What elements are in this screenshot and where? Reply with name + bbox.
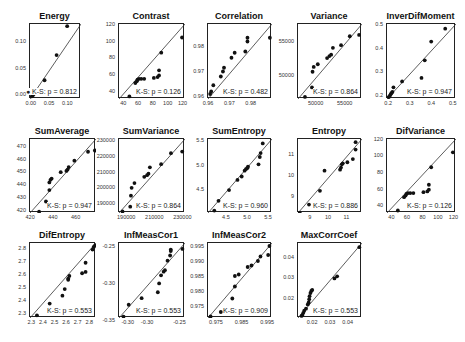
data-point: [159, 162, 163, 166]
data-point: [423, 58, 427, 62]
data-point: [180, 150, 184, 154]
y-tick-label: 50000: [271, 72, 294, 78]
data-point: [127, 95, 131, 99]
data-point: [211, 83, 215, 87]
y-tick-label: 60: [360, 186, 383, 192]
plot-title: Energy: [29, 11, 80, 21]
data-point: [67, 274, 71, 278]
data-point: [329, 53, 333, 57]
y-tick-label: 5.5: [181, 137, 204, 143]
y-tick-label: -0.35: [92, 317, 115, 323]
y-tick-label: 2.8: [3, 245, 26, 251]
plot-area: K-S: p = 0.909: [207, 242, 271, 317]
data-point: [312, 65, 316, 69]
data-point: [345, 160, 349, 164]
data-point: [311, 70, 315, 74]
x-tick-label: 230000: [173, 214, 189, 220]
x-tick-label: 5.5: [260, 214, 276, 220]
y-tick-label: 440: [3, 181, 26, 187]
ks-test-label: K-S: p = 0.126: [407, 202, 452, 209]
data-point: [420, 76, 424, 80]
y-tick-label: 11: [271, 151, 294, 157]
data-point: [163, 268, 167, 272]
x-tick-label: 10: [320, 214, 336, 220]
data-point: [310, 288, 314, 292]
x-tick-label: 55000: [337, 100, 353, 106]
data-point: [159, 273, 163, 277]
data-point: [122, 315, 126, 318]
y-tick-label: 0.03: [271, 274, 294, 280]
y-tick-label: 100: [360, 152, 383, 158]
data-point: [316, 62, 320, 66]
y-tick-label: 0.995: [181, 243, 204, 249]
y-tick-label: 430: [3, 194, 26, 200]
data-point: [222, 66, 226, 70]
x-tick-label: 460: [68, 214, 84, 220]
data-point: [212, 209, 216, 213]
y-tick-label: 9: [271, 193, 294, 199]
x-tick-label: 11: [338, 214, 354, 220]
data-point: [147, 172, 151, 176]
x-tick-label: 190000: [117, 214, 133, 220]
y-tick-label: 210000: [92, 169, 115, 175]
data-point: [156, 290, 160, 294]
data-point: [127, 303, 131, 307]
plot-area: K-S: p = 0.864: [297, 23, 361, 98]
plot-area: K-S: p = 0.947: [29, 138, 95, 212]
y-tick-label: 2.4: [3, 297, 26, 303]
x-tick-label: 0.975: [208, 319, 224, 325]
plot-area: ● K-S: p = 0.812: [29, 23, 80, 98]
y-tick-label: 60: [92, 71, 115, 77]
ks-test-label: K-S: p = 0.126: [136, 88, 181, 95]
ks-test-label: K-S: p = 0.947: [47, 202, 92, 209]
plot-area: K-S: p = 0.482: [207, 23, 271, 98]
data-point: [429, 165, 433, 169]
data-point: [128, 205, 132, 209]
data-point: [392, 85, 396, 89]
y-tick-label: 55000: [271, 38, 294, 44]
x-tick-label: 0.03: [322, 319, 338, 325]
data-point: [130, 186, 134, 190]
ks-test-label: K-S: p = 0.909: [223, 307, 268, 314]
x-tick-label: 4.5: [218, 214, 234, 220]
plot-title: DifVariance: [386, 126, 455, 136]
data-point: [307, 203, 311, 207]
data-point: [400, 80, 404, 84]
x-tick-label: 440: [45, 214, 61, 220]
data-point: [411, 191, 415, 195]
data-point: [63, 287, 67, 291]
y-tick-label: 0.985: [181, 273, 204, 279]
y-tick-label: 450: [3, 168, 26, 174]
y-tick-label: 220000: [92, 153, 115, 159]
data-point: [246, 165, 250, 169]
data-point: [129, 194, 133, 198]
y-tick-label: 230000: [92, 137, 115, 143]
y-tick-label: 0.980: [181, 288, 204, 294]
y-tick-label: 80: [360, 169, 383, 175]
x-tick-label: 120: [445, 214, 461, 220]
data-point: [159, 51, 163, 55]
ks-test-label: K-S: p = 0.864: [313, 88, 358, 95]
data-point: [48, 302, 52, 306]
data-point: [268, 244, 272, 248]
x-tick-label: 60: [130, 100, 146, 106]
plot-title: Variance: [297, 11, 361, 21]
data-point: [318, 189, 322, 193]
data-point: [427, 183, 431, 187]
x-tick-label: 0.3: [402, 100, 418, 106]
data-point: [335, 274, 339, 278]
x-tick-label: 420: [22, 214, 38, 220]
data-point: [59, 170, 63, 174]
y-tick-label: 0.10: [3, 38, 26, 44]
y-tick-label: 40: [360, 202, 383, 208]
data-point: [209, 90, 213, 94]
data-point: [390, 90, 394, 94]
data-point: [298, 211, 302, 213]
data-point: [233, 274, 237, 278]
x-tick-label: 210000: [145, 214, 161, 220]
y-tick-label: 80: [92, 54, 115, 60]
y-tick-label: 0.97: [181, 68, 204, 74]
x-tick-label: 100: [430, 214, 446, 220]
data-point: [93, 149, 96, 153]
plot-title: SumEntropy: [207, 126, 271, 136]
